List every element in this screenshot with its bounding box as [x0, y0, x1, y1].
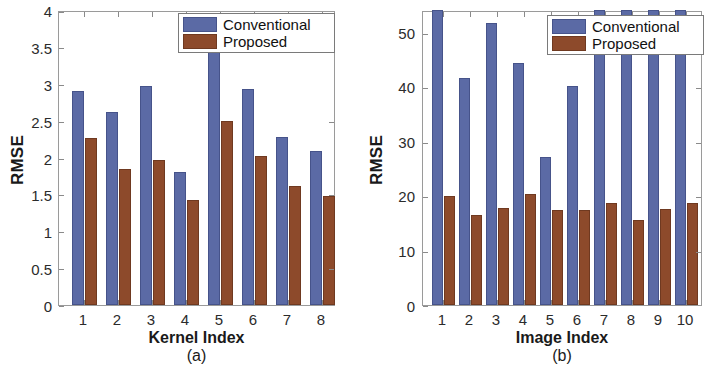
- bar-proposed: [498, 208, 509, 305]
- x-tick-mark: [524, 300, 525, 305]
- y-tick-mark: [423, 306, 428, 307]
- chart-panel-b: RMSE: [355, 0, 709, 365]
- y-tick-mark: [59, 122, 64, 123]
- y-tick-mark: [696, 197, 701, 198]
- x-tick-mark: [524, 12, 525, 17]
- bar-proposed: [323, 196, 335, 305]
- y-tick-label: 4: [8, 3, 52, 20]
- panel-a-bars: [59, 12, 334, 305]
- bar-conventional: [513, 63, 524, 305]
- y-tick-label: 30: [369, 133, 415, 150]
- x-tick-mark: [118, 300, 119, 305]
- x-tick-mark: [659, 300, 660, 305]
- panel-a-plot-area: Conventional Proposed: [58, 11, 335, 306]
- y-tick-mark: [59, 12, 64, 13]
- y-tick-label: 1: [8, 224, 52, 241]
- y-tick-mark: [59, 306, 64, 307]
- x-tick-mark: [186, 300, 187, 305]
- y-tick-label: 0.5: [8, 261, 52, 278]
- x-tick-mark: [118, 12, 119, 17]
- y-tick-label: 50: [369, 24, 415, 41]
- x-tick-mark: [470, 12, 471, 17]
- bar-proposed: [221, 121, 233, 305]
- legend-swatch-conventional: [552, 19, 586, 34]
- y-tick-mark: [423, 34, 428, 35]
- y-tick-mark: [59, 269, 64, 270]
- y-tick-mark: [423, 143, 428, 144]
- x-tick-label: 7: [283, 311, 291, 328]
- y-tick-label: 3.5: [8, 39, 52, 56]
- panel-a-legend[interactable]: Conventional Proposed: [178, 13, 335, 53]
- legend-entry-conventional: Conventional: [552, 19, 698, 34]
- legend-swatch-proposed: [183, 34, 217, 49]
- bar-proposed: [660, 209, 671, 305]
- bar-proposed: [606, 203, 617, 305]
- bar-proposed: [187, 200, 199, 305]
- legend-label-conventional: Conventional: [223, 17, 311, 32]
- x-tick-mark: [497, 12, 498, 17]
- panel-b-bars: [423, 12, 701, 305]
- bar-conventional: [72, 91, 84, 305]
- bar-proposed: [444, 196, 455, 305]
- y-tick-label: 20: [369, 188, 415, 205]
- figure-root: RMSE: [0, 0, 709, 365]
- panel-a-x-axis-label: Kernel Index: [58, 329, 335, 347]
- y-tick-label: 1.5: [8, 187, 52, 204]
- bar-conventional: [486, 23, 497, 305]
- x-tick-mark: [288, 300, 289, 305]
- x-tick-mark: [443, 12, 444, 17]
- legend-entry-proposed: Proposed: [183, 34, 329, 49]
- x-tick-label: 1: [438, 311, 446, 328]
- panel-b-plot-area: Conventional Proposed: [422, 11, 702, 306]
- legend-label-conventional: Conventional: [592, 19, 680, 34]
- x-tick-mark: [686, 300, 687, 305]
- y-tick-mark: [423, 197, 428, 198]
- y-tick-mark: [59, 85, 64, 86]
- y-tick-mark: [329, 269, 334, 270]
- bar-proposed: [687, 203, 698, 305]
- x-tick-mark: [551, 300, 552, 305]
- x-tick-mark: [220, 300, 221, 305]
- legend-swatch-proposed: [552, 36, 586, 51]
- bar-proposed: [255, 156, 267, 305]
- x-tick-label: 6: [249, 311, 257, 328]
- chart-panel-a: RMSE: [0, 0, 355, 365]
- y-tick-label: 2: [8, 150, 52, 167]
- bar-conventional: [276, 137, 288, 305]
- x-tick-mark: [632, 300, 633, 305]
- y-tick-mark: [59, 232, 64, 233]
- bar-conventional: [174, 172, 186, 306]
- y-tick-mark: [696, 252, 701, 253]
- bar-proposed: [289, 186, 301, 305]
- bar-proposed: [153, 160, 165, 305]
- x-tick-label: 5: [215, 311, 223, 328]
- x-tick-mark: [152, 300, 153, 305]
- x-tick-mark: [605, 300, 606, 305]
- panel-b-legend[interactable]: Conventional Proposed: [547, 15, 704, 55]
- x-tick-label: 3: [147, 311, 155, 328]
- y-tick-label: 0: [8, 298, 52, 315]
- x-tick-mark: [152, 12, 153, 17]
- x-tick-mark: [84, 12, 85, 17]
- x-tick-mark: [443, 300, 444, 305]
- y-tick-mark: [329, 122, 334, 123]
- bar-conventional: [310, 151, 322, 305]
- bar-conventional: [540, 157, 551, 306]
- y-tick-label: 2.5: [8, 113, 52, 130]
- legend-entry-conventional: Conventional: [183, 17, 329, 32]
- legend-label-proposed: Proposed: [592, 36, 656, 51]
- x-tick-label: 8: [627, 311, 635, 328]
- bar-conventional: [459, 78, 470, 305]
- y-tick-mark: [59, 195, 64, 196]
- bar-proposed: [85, 138, 97, 305]
- bar-conventional: [106, 112, 118, 305]
- y-tick-mark: [423, 88, 428, 89]
- panel-a-caption: (a): [58, 347, 335, 365]
- x-tick-mark: [254, 300, 255, 305]
- bar-proposed: [579, 210, 590, 305]
- bar-proposed: [471, 215, 482, 305]
- x-tick-label: 1: [79, 311, 87, 328]
- x-tick-label: 2: [113, 311, 121, 328]
- x-tick-label: 2: [465, 311, 473, 328]
- x-tick-label: 4: [181, 311, 189, 328]
